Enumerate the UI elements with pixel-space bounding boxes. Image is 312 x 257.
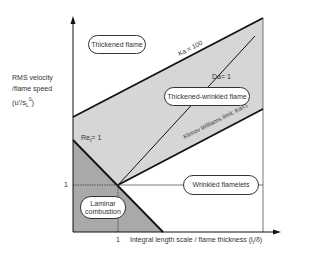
x-axis-label: Integral length scale / flame thickness … <box>130 236 262 246</box>
re-label-suffix: = 1 <box>91 134 101 141</box>
y-axis-label: RMS velocity /flame speed (u'/sL0) <box>12 72 53 111</box>
y-axis-label-sub: L <box>26 102 29 108</box>
x-tick-1: 1 <box>116 236 120 244</box>
regime-diagram <box>0 0 312 257</box>
laminar-line2: combustion <box>85 208 121 216</box>
y-axis-label-close: ) <box>32 98 35 107</box>
y-axis-arrow-icon <box>71 16 76 24</box>
re1-label: Ret= 1 <box>81 134 101 144</box>
y-axis-label-text: (u'/s <box>12 98 26 107</box>
x-axis-label-close: /δ) <box>254 236 262 243</box>
y-tick-1: 1 <box>64 181 68 189</box>
x-axis-arrow-icon <box>273 230 281 235</box>
y-axis-label-line2: /flame speed <box>12 83 53 94</box>
y-axis-label-line1: RMS velocity <box>12 72 53 83</box>
regime-wrinkled-flamelets: Wrinkled flamelets <box>183 175 259 195</box>
x-axis-label-text: Integral length scale / flame thickness … <box>130 236 253 243</box>
re-label-prefix: Re <box>81 134 90 141</box>
da1-label: Da= 1 <box>212 73 231 81</box>
laminar-line1: Laminar <box>90 200 115 208</box>
regime-thickened-wrinkled-flame: Thickened-wrinkled flame <box>164 87 250 106</box>
regime-laminar-combustion: Laminar combustion <box>80 196 126 219</box>
y-axis-label-line3: (u'/sL0) <box>12 94 53 111</box>
regime-thickened-flame: Thickened flame <box>88 35 146 54</box>
